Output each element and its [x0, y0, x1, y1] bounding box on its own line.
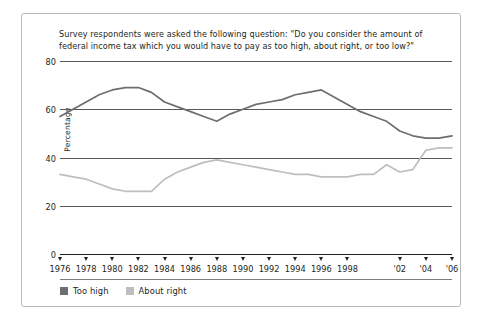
gridline-0: 0: [60, 254, 452, 255]
series-lines: [60, 61, 452, 254]
x-tick-label-2006: '06: [446, 264, 459, 274]
x-tick-label-1996: 1996: [311, 264, 332, 274]
x-tick-mark-1998: [345, 257, 349, 261]
x-tick-mark-1976: [58, 257, 62, 261]
legend-swatch-about-right: [126, 287, 134, 295]
x-tick-label-2004: '04: [420, 264, 433, 274]
legend-item-about-right[interactable]: About right: [126, 286, 187, 296]
x-tick-mark-2004: [424, 257, 428, 261]
legend-label-about-right: About right: [139, 286, 187, 296]
x-tick-mark-1984: [163, 257, 167, 261]
legend-swatch-too-high: [60, 287, 68, 295]
y-tick-label-80: 80: [46, 57, 56, 67]
x-tick-label-1992: 1992: [259, 264, 280, 274]
plot-area: Percentage 020406080 1976197819801982198…: [60, 61, 452, 254]
y-tick-label-40: 40: [46, 154, 56, 164]
legend-label-too-high: Too high: [73, 286, 109, 296]
chart-question-text: Survey respondents were asked the follow…: [59, 28, 445, 53]
series-line-too-high: [60, 88, 452, 139]
legend-item-too-high[interactable]: Too high: [60, 286, 109, 296]
x-tick-mark-1990: [241, 257, 245, 261]
x-tick-mark-1994: [293, 257, 297, 261]
x-tick-label-1982: 1982: [128, 264, 149, 274]
x-tick-label-1986: 1986: [180, 264, 201, 274]
x-tick-mark-1982: [136, 257, 140, 261]
x-tick-label-1980: 1980: [102, 264, 123, 274]
x-tick-mark-1992: [267, 257, 271, 261]
x-tick-mark-1978: [84, 257, 88, 261]
x-tick-label-1990: 1990: [233, 264, 254, 274]
x-tick-mark-1988: [215, 257, 219, 261]
x-tick-mark-1996: [319, 257, 323, 261]
x-tick-label-1994: 1994: [285, 264, 306, 274]
y-tick-label-60: 60: [46, 105, 56, 115]
chart-frame: Survey respondents were asked the follow…: [21, 13, 461, 307]
chart-legend: Too high About right: [60, 286, 187, 296]
x-tick-label-1978: 1978: [76, 264, 97, 274]
x-tick-label-2002: '02: [393, 264, 406, 274]
legend-divider: [60, 279, 452, 280]
x-tick-label-1976: 1976: [50, 264, 71, 274]
x-tick-label-1988: 1988: [206, 264, 227, 274]
y-tick-label-0: 0: [51, 250, 56, 260]
x-tick-label-1998: 1998: [337, 264, 358, 274]
x-tick-mark-1986: [189, 257, 193, 261]
x-tick-mark-1980: [110, 257, 114, 261]
x-tick-label-1984: 1984: [154, 264, 175, 274]
x-tick-mark-2002: [398, 257, 402, 261]
x-tick-mark-2006: [450, 257, 454, 261]
y-tick-label-20: 20: [46, 202, 56, 212]
series-line-about-right: [60, 148, 452, 191]
